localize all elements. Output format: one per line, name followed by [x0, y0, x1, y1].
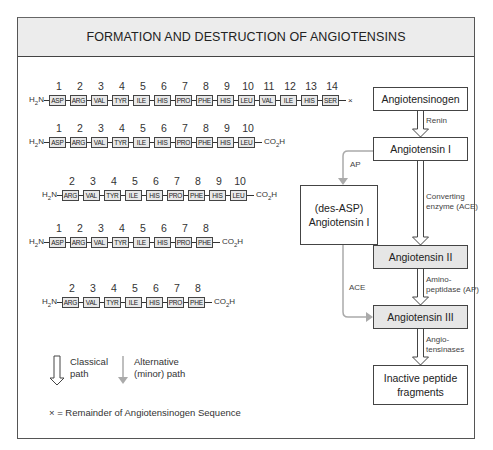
box-angiotensin-ii: Angiotensin II — [373, 245, 468, 269]
box-label-line2: fragments — [397, 385, 444, 399]
box-des-asp-angiotensin-i: (des-ASP) Angiotensin I — [300, 185, 378, 245]
box-angiotensinogen: Angiotensinogen — [373, 87, 468, 111]
legend-classical: Classical path — [70, 356, 108, 381]
legend-alternative: Alternative (minor) path — [134, 356, 185, 381]
box-angiotensin-i: Angiotensin I — [373, 137, 468, 161]
box-label: Angiotensinogen — [381, 92, 459, 106]
enzyme-angiotensinases: Angio- tensinases — [426, 335, 464, 356]
legend-line1: Alternative — [134, 356, 185, 368]
box-inactive-fragments: Inactive peptide fragments — [373, 365, 468, 405]
legend-line2: (minor) path — [134, 368, 185, 380]
legend-line1: Classical — [70, 356, 108, 368]
enzyme-aminopeptidase: Amino- peptidase (AP) — [426, 275, 479, 296]
box-label-line1: Inactive peptide — [384, 371, 458, 385]
enzyme-ap-alt: AP — [350, 160, 361, 170]
enzyme-line1: Amino- — [426, 275, 479, 285]
enzyme-line2: tensinases — [426, 345, 464, 355]
box-angiotensin-iii: Angiotensin III — [373, 305, 468, 329]
box-label-line2: Angiotensin I — [309, 215, 370, 229]
box-label: Angiotensin III — [387, 310, 454, 324]
enzyme-ace-alt: ACE — [349, 283, 365, 293]
enzyme-line1: Converting — [426, 192, 478, 202]
classical-path-icon — [50, 356, 64, 385]
enzyme-line1: Angio- — [426, 335, 464, 345]
ace-alt-path — [343, 245, 367, 317]
enzyme-renin: Renin — [426, 116, 447, 126]
box-label: Angiotensin I — [390, 142, 451, 156]
footnote: × = Remainder of Angiotensinogen Sequenc… — [49, 407, 241, 418]
legend-line2: path — [70, 368, 108, 380]
box-label: Angiotensin II — [389, 250, 453, 264]
enzyme-converting: Converting enzyme (ACE) — [426, 192, 478, 213]
box-label-line1: (des-ASP) — [315, 201, 363, 215]
enzyme-line2: peptidase (AP) — [426, 285, 479, 295]
enzyme-line2: enzyme (ACE) — [426, 202, 478, 212]
